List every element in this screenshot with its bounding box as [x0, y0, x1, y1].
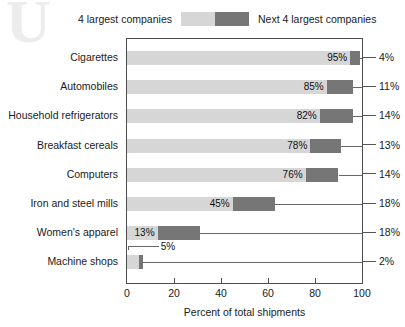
- x-axis-line: [126, 284, 363, 285]
- bar-value-label: 76%: [127, 167, 303, 182]
- right-leader-line: [363, 144, 376, 145]
- value-leader-line: [353, 87, 362, 88]
- category-label: Computers: [67, 167, 118, 181]
- category-label: Household refrigerators: [8, 108, 118, 122]
- right-leader-line: [363, 86, 376, 87]
- right-value-item: 14%: [363, 108, 400, 122]
- next-four-value-label: 18%: [379, 196, 400, 210]
- bar-segment-next-four: [327, 80, 353, 94]
- right-leader-line: [363, 203, 376, 204]
- chart-legend: 4 largest companies Next 4 largest compa…: [78, 11, 376, 27]
- bar-segment-next-four: [158, 226, 200, 240]
- right-value-item: 18%: [363, 196, 400, 210]
- value-leader-line: [341, 146, 362, 147]
- bar-segment-next-four: [320, 109, 353, 123]
- value-leader-line: [353, 116, 362, 117]
- bar-value-label: 45%: [127, 196, 230, 211]
- x-axis-tick: [221, 278, 222, 284]
- bar-value-label: 78%: [127, 138, 307, 153]
- legend-swatch-light: [181, 12, 215, 26]
- category-label: Iron and steel mills: [30, 196, 118, 210]
- bar-row: 85%: [127, 80, 362, 94]
- value-leader-line: [200, 233, 362, 234]
- bar-row: 78%: [127, 139, 362, 153]
- x-axis-tick-label: 20: [168, 287, 180, 299]
- x-axis-tick-label: 100: [353, 287, 371, 299]
- right-leader-line: [363, 115, 376, 116]
- x-axis-tick: [268, 278, 269, 284]
- category-axis: CigarettesAutomobilesHousehold refrigera…: [0, 38, 122, 284]
- bar-value-label: 5%: [161, 239, 175, 254]
- right-value-item: 4%: [363, 50, 394, 64]
- legend-swatch-dark: [215, 12, 249, 26]
- x-axis-title: Percent of total shipments: [126, 306, 363, 318]
- next-four-value-label: 4%: [379, 50, 394, 64]
- right-value-axis: 4%11%14%13%14%18%18%2%: [363, 38, 405, 284]
- bar-row: 82%: [127, 109, 362, 123]
- x-axis-tick: [174, 278, 175, 284]
- x-axis-tick-labels: 020406080100: [126, 287, 363, 301]
- bar-segment-next-four: [350, 51, 359, 65]
- x-axis-tick-label: 60: [262, 287, 274, 299]
- callout-leader-line: [128, 246, 159, 247]
- next-four-value-label: 14%: [379, 167, 400, 181]
- value-leader-line: [339, 175, 363, 176]
- category-label: Breakfast cereals: [37, 138, 118, 152]
- bar-value-label: 13%: [127, 225, 155, 240]
- bar-segment-four-largest: [127, 255, 139, 269]
- category-label: Cigarettes: [70, 50, 118, 64]
- next-four-value-label: 18%: [379, 225, 400, 239]
- value-leader-line: [143, 262, 362, 263]
- value-leader-line: [360, 58, 362, 59]
- bar-row: 45%: [127, 197, 362, 211]
- legend-label-right: Next 4 largest companies: [258, 13, 376, 25]
- x-axis-tick-label: 80: [309, 287, 321, 299]
- right-value-item: 13%: [363, 138, 400, 152]
- legend-label-left: 4 largest companies: [78, 13, 172, 25]
- bar-row: 95%: [127, 51, 362, 65]
- x-axis-tick: [315, 278, 316, 284]
- bar-value-label: 95%: [127, 50, 347, 65]
- right-leader-line: [363, 261, 376, 262]
- next-four-value-label: 11%: [379, 79, 399, 93]
- chart-root: U 4 largest companies Next 4 largest com…: [0, 0, 405, 327]
- bar-segment-next-four: [306, 168, 339, 182]
- next-four-value-label: 14%: [379, 108, 400, 122]
- bar-row: 13%: [127, 226, 362, 240]
- plot-area: 95%85%82%78%76%45%13%5%: [126, 38, 363, 284]
- bar-value-label: 82%: [127, 108, 317, 123]
- next-four-value-label: 2%: [379, 254, 394, 268]
- callout-tick: [128, 246, 129, 250]
- category-label: Automobiles: [60, 79, 118, 93]
- bar-row: 5%: [127, 255, 362, 269]
- x-axis-tick-label: 40: [215, 287, 227, 299]
- category-label: Machine shops: [47, 254, 118, 268]
- right-leader-line: [363, 173, 376, 174]
- bar-segment-next-four: [310, 139, 341, 153]
- bar-row: 76%: [127, 168, 362, 182]
- bar-segment-next-four: [233, 197, 275, 211]
- right-value-item: 14%: [363, 167, 400, 181]
- right-value-item: 11%: [363, 79, 399, 93]
- bar-value-label: 85%: [127, 79, 324, 94]
- value-leader-line: [275, 204, 362, 205]
- right-value-item: 2%: [363, 254, 394, 268]
- x-axis-tick-label: 0: [124, 287, 130, 299]
- category-label: Women's apparel: [37, 225, 118, 239]
- right-leader-line: [363, 57, 376, 58]
- right-value-item: 18%: [363, 225, 400, 239]
- right-leader-line: [363, 232, 376, 233]
- legend-swatches: [181, 12, 249, 26]
- next-four-value-label: 13%: [379, 138, 400, 152]
